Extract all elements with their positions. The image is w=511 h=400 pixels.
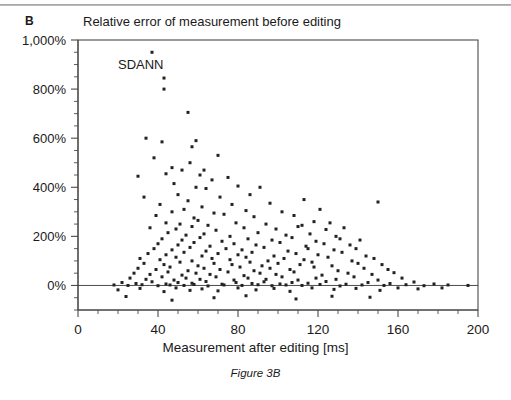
data-point [191, 145, 194, 148]
data-point [227, 270, 230, 273]
data-point [223, 283, 226, 286]
data-point [179, 223, 182, 226]
data-point [339, 237, 342, 240]
x-axis-tick-label: 40 [150, 322, 165, 337]
data-point [281, 210, 284, 213]
annotation-label: SDANN [118, 57, 164, 72]
data-point [161, 237, 164, 240]
data-point [215, 275, 218, 278]
data-point [329, 221, 332, 224]
data-point [339, 284, 342, 287]
data-point [307, 247, 310, 250]
data-point [335, 235, 338, 238]
data-point [207, 224, 210, 227]
data-point [317, 253, 320, 256]
data-point [191, 259, 194, 262]
data-point [159, 203, 162, 206]
data-point [211, 257, 214, 260]
data-point [287, 250, 290, 253]
data-point [365, 255, 368, 258]
data-point [189, 246, 192, 249]
x-axis-tick-label: 160 [387, 322, 410, 337]
data-point [265, 223, 268, 226]
data-point [423, 284, 426, 287]
x-axis-title: Measurement after editing [ms] [0, 340, 511, 355]
scatter-plot: 0%200%400%600%800%1,000% 04080120160200 … [0, 0, 511, 340]
data-point [289, 290, 292, 293]
data-point [417, 287, 420, 290]
data-point [231, 263, 234, 266]
data-point [247, 277, 250, 280]
data-point [195, 139, 198, 142]
data-point [259, 272, 262, 275]
data-point [285, 234, 288, 237]
data-point [267, 259, 270, 262]
data-point [245, 256, 248, 259]
data-point [239, 266, 242, 269]
data-point [157, 242, 160, 245]
data-point [137, 267, 140, 270]
data-point [271, 239, 274, 242]
data-point [209, 245, 212, 248]
data-point [205, 187, 208, 190]
data-point [129, 277, 132, 280]
data-point [313, 220, 316, 223]
data-point [199, 278, 202, 281]
data-point [173, 182, 176, 185]
data-point [377, 201, 380, 204]
data-point [249, 261, 252, 264]
data-point [273, 287, 276, 290]
figure-caption: Figure 3B [0, 367, 511, 379]
data-point [343, 226, 346, 229]
data-point [315, 240, 318, 243]
data-point [217, 154, 220, 157]
data-point [139, 287, 142, 290]
data-point [217, 289, 220, 292]
data-point [141, 283, 144, 286]
data-point [185, 234, 188, 237]
data-point [127, 284, 130, 287]
data-point [269, 267, 272, 270]
data-point [169, 266, 172, 269]
data-point [277, 262, 280, 265]
data-point [271, 284, 274, 287]
x-axis: 04080120160200 [74, 310, 489, 337]
data-point [245, 294, 248, 297]
data-point [197, 219, 200, 222]
data-point [149, 273, 152, 276]
data-point [175, 228, 178, 231]
data-point [177, 193, 180, 196]
data-point [285, 283, 288, 286]
data-point [143, 262, 146, 265]
data-point [165, 221, 168, 224]
data-point [205, 280, 208, 283]
data-point [139, 257, 142, 260]
data-point [325, 228, 328, 231]
data-point [467, 284, 470, 287]
y-axis-tick-label: 600% [33, 131, 67, 146]
data-point [209, 273, 212, 276]
data-point [177, 243, 180, 246]
data-point [295, 297, 298, 300]
data-point [207, 284, 210, 287]
data-point [195, 186, 198, 189]
data-point [283, 257, 286, 260]
data-point [357, 262, 360, 265]
data-point [381, 263, 384, 266]
data-point [187, 199, 190, 202]
data-point [301, 224, 304, 227]
y-axis: 0%200%400%600%800%1,000% [22, 33, 78, 311]
data-point [383, 284, 386, 287]
data-point [247, 237, 250, 240]
data-point [201, 255, 204, 258]
data-point [199, 236, 202, 239]
data-point [151, 280, 154, 283]
data-point [249, 193, 252, 196]
data-point [273, 255, 276, 258]
data-point [367, 281, 370, 284]
data-point [297, 279, 300, 282]
data-point [227, 176, 230, 179]
data-point [275, 273, 278, 276]
data-point [263, 280, 266, 283]
data-point [175, 286, 178, 289]
